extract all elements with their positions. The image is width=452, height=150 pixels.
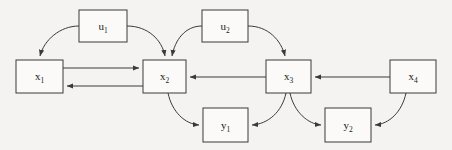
node-x4[interactable]: x4 (390, 60, 436, 93)
node-label-sub-x4: 4 (414, 76, 418, 85)
node-label-sub-y2: 2 (349, 125, 353, 134)
edge-u1-to-x1 (40, 26, 79, 56)
node-label-sub-u2: 2 (226, 26, 230, 35)
edge-u1-to-x2 (127, 26, 165, 56)
edge-x4-to-y2 (375, 93, 406, 125)
node-label-sub-u1: 1 (104, 26, 108, 35)
node-label-sub-x1: 1 (40, 76, 44, 85)
block-diagram-figure: u1u2x1x2x3x4y1y2 (0, 0, 452, 150)
edge-x3-to-y2 (290, 93, 321, 125)
edge-x3-to-y1 (252, 93, 286, 125)
node-u2[interactable]: u2 (202, 10, 248, 42)
node-label-sub-y1: 1 (226, 125, 230, 134)
node-u1[interactable]: u1 (79, 10, 127, 42)
node-label-sub-x3: 3 (289, 76, 293, 85)
node-x3[interactable]: x3 (266, 60, 311, 93)
edge-u2-to-x3 (248, 26, 285, 56)
nodes-layer: u1u2x1x2x3x4y1y2 (16, 10, 436, 142)
node-y1[interactable]: y1 (203, 108, 248, 142)
edge-x2-to-y1 (168, 93, 199, 125)
node-y2[interactable]: y2 (325, 108, 371, 142)
node-x2[interactable]: x2 (143, 60, 186, 93)
node-label-sub-x2: 2 (165, 76, 169, 85)
edge-u2-to-x2 (172, 26, 202, 56)
node-x1[interactable]: x1 (16, 60, 63, 93)
diagram-canvas: u1u2x1x2x3x4y1y2 (0, 0, 452, 150)
